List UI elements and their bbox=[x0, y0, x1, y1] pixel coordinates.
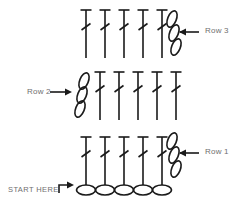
chain-oval bbox=[115, 185, 134, 195]
stitch-symbol bbox=[138, 137, 149, 185]
row-1-group bbox=[81, 131, 200, 185]
stitch-symbol bbox=[81, 10, 92, 58]
foundation-chain bbox=[77, 185, 172, 195]
arrow-row2 bbox=[50, 89, 72, 96]
stitch-symbol bbox=[100, 137, 111, 185]
row-3-group bbox=[81, 9, 200, 58]
stitch-symbol bbox=[95, 72, 106, 120]
row-1-label: Row 1 bbox=[205, 148, 229, 156]
stitch-symbol bbox=[133, 72, 144, 120]
chain-oval bbox=[75, 85, 89, 104]
row-1-turning-chain bbox=[165, 131, 183, 178]
stitch-symbol bbox=[100, 10, 111, 58]
chain-oval bbox=[73, 99, 87, 118]
chain-oval bbox=[77, 185, 96, 195]
row-2-stitches bbox=[95, 72, 182, 120]
stitch-symbol bbox=[152, 72, 163, 120]
stitch-symbol bbox=[138, 10, 149, 58]
chain-oval bbox=[77, 71, 91, 90]
arrow-row1 bbox=[179, 150, 199, 157]
stitch-symbol bbox=[157, 137, 168, 185]
arrow-row3 bbox=[179, 29, 199, 36]
stitch-symbol bbox=[81, 137, 92, 185]
row-1-stitches bbox=[81, 137, 168, 185]
row-3-stitches bbox=[81, 10, 168, 58]
crochet-diagram: Row 3 Row 2 Row 1 START HERE bbox=[0, 0, 240, 215]
row-2-group bbox=[50, 71, 182, 120]
stitch-chart-canvas bbox=[0, 0, 240, 215]
stitch-symbol bbox=[119, 10, 130, 58]
row-2-label: Row 2 bbox=[27, 88, 51, 96]
start-here-label: START HERE bbox=[8, 186, 59, 194]
row-3-turning-chain bbox=[165, 9, 183, 56]
start-here-arrow-icon bbox=[59, 182, 74, 193]
stitch-symbol bbox=[157, 10, 168, 58]
row-3-label: Row 3 bbox=[205, 27, 229, 35]
chain-oval bbox=[153, 185, 172, 195]
stitch-symbol bbox=[171, 72, 182, 120]
row-2-turning-chain bbox=[73, 71, 91, 118]
chain-oval bbox=[96, 185, 115, 195]
chain-oval bbox=[134, 185, 153, 195]
stitch-symbol bbox=[119, 137, 130, 185]
stitch-symbol bbox=[114, 72, 125, 120]
